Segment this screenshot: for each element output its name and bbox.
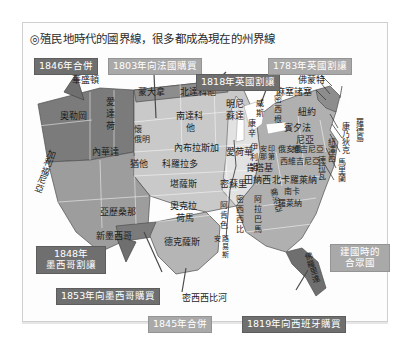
state-label-illinois-2: 利 xyxy=(250,154,258,162)
annotation-1818-british-cession[interactable]: 1818年英國割讓 xyxy=(196,74,280,91)
state-label-south-carolina-2: 羅萊納 xyxy=(278,200,302,208)
state-label-pennsylvania-2: 尼亞 xyxy=(296,136,314,145)
state-label-texas: 德克薩斯 xyxy=(164,238,200,247)
annotation-founding-union[interactable]: 建國時的 合眾國 xyxy=(330,244,390,272)
state-label-washington: 華盛頓 xyxy=(72,76,99,85)
state-label-idaho-3: 荷 xyxy=(106,122,115,131)
state-label-new-mexico: 新墨西哥 xyxy=(96,232,132,241)
state-label-indiana-2: 第 xyxy=(268,154,275,161)
state-label-indiana-4: 那 xyxy=(260,154,267,161)
state-label-maine: 緬因 xyxy=(342,94,350,110)
figure-root: ◎殖民地時代的國界線，很多都成為現在的州界線 xyxy=(0,0,411,357)
state-label-wisconsin-4: 辛 xyxy=(248,130,256,138)
river-label-mississippi: 密西西比河 xyxy=(182,294,227,303)
state-label-wyoming-2: 俄明 xyxy=(134,136,150,144)
state-label-new-york: 紐約 xyxy=(298,108,316,117)
state-label-alabama-1: 阿 xyxy=(254,196,262,204)
state-label-arizona: 亞歷桑那 xyxy=(100,208,136,217)
state-label-colorado: 科羅拉多 xyxy=(162,160,198,169)
state-label-missouri: 密蘇里 xyxy=(220,180,247,189)
annotation-1846-annexation[interactable]: 1846年合併 xyxy=(34,58,98,75)
state-label-delaware: 德拉瓦 xyxy=(316,156,324,180)
state-label-massachusetts: 麻塞諸塞 xyxy=(276,88,312,97)
state-label-west-virginia: 西維吉尼亞 xyxy=(280,158,320,166)
state-label-wisconsin-1: 威 xyxy=(256,100,264,108)
state-label-south-dakota-2: 他 xyxy=(186,124,195,133)
state-label-mississippi-3: 西 xyxy=(236,216,244,224)
annotation-1803-louisiana-purchase[interactable]: 1803年向法國購買 xyxy=(108,58,202,75)
state-label-alabama-4: 馬 xyxy=(254,226,262,234)
state-label-pennsylvania-1: 賓夕法 xyxy=(284,124,311,133)
state-label-north-carolina: 北卡羅萊納 xyxy=(272,176,317,185)
state-label-nevada: 內華達 xyxy=(92,148,119,157)
state-label-kansas: 堪薩斯 xyxy=(170,180,197,189)
state-label-oklahoma-1: 奧克拉 xyxy=(170,202,197,211)
state-label-wisconsin-2: 斯 xyxy=(256,110,264,118)
state-label-louisiana-4: 安 xyxy=(214,236,221,243)
annotation-1848-line1: 1848年 xyxy=(54,248,88,259)
state-label-illinois-1: 伊 xyxy=(250,144,258,152)
state-label-new-jersey: 紐澤西 xyxy=(326,138,334,162)
state-label-arkansas-1: 阿 xyxy=(220,202,228,210)
state-label-nebraska: 內布拉斯加 xyxy=(174,144,219,153)
state-label-maryland: 馬里蘭 xyxy=(336,158,344,182)
state-label-virginia: 維吉尼亞 xyxy=(292,146,324,154)
state-label-wyoming-1: 懷 xyxy=(134,126,142,134)
state-label-idaho-1: 愛 xyxy=(106,98,115,107)
state-label-south-carolina-1: 南卡 xyxy=(284,188,300,196)
state-label-mississippi-2: 西 xyxy=(236,206,244,214)
annotation-founding-line2: 合眾國 xyxy=(345,257,375,268)
state-label-montana: 蒙大拿 xyxy=(138,88,165,97)
state-label-oklahoma-2: 荷馬 xyxy=(176,214,194,223)
state-label-louisiana-3: 斯 xyxy=(222,252,229,259)
annotation-1848-mexican-cession[interactable]: 1848年 墨西哥割讓 xyxy=(36,246,106,274)
state-label-tennessee: 田納西 xyxy=(244,176,271,185)
annotation-founding-line1: 建國時的 xyxy=(340,246,380,257)
annotation-1783-british-cession[interactable]: 1783年英國割讓 xyxy=(268,58,352,75)
state-label-vermont: 佛蒙特 xyxy=(298,76,325,85)
state-label-mississippi-1: 密 xyxy=(236,196,244,204)
state-label-michigan-2: 西 xyxy=(274,106,282,114)
page-title: ◎殖民地時代的國界線，很多都成為現在的州界線 xyxy=(30,30,275,46)
state-label-arkansas-3: 色 xyxy=(220,222,228,230)
state-label-arkansas-2: 肯 xyxy=(220,212,228,220)
state-label-minnesota-1: 明尼 xyxy=(226,100,244,109)
state-label-connecticut: 康乃狄克 xyxy=(340,122,348,154)
state-label-iowa: 愛荷華 xyxy=(226,148,253,157)
state-label-south-dakota-1: 南達科 xyxy=(176,112,203,121)
state-label-rhode-island: 羅德島 xyxy=(354,118,362,142)
state-label-alabama-3: 巴 xyxy=(254,216,262,224)
annotation-1848-line2: 墨西哥割讓 xyxy=(46,259,96,270)
annotation-1845-texas-annexation[interactable]: 1845年合併 xyxy=(148,316,212,333)
state-label-alabama-2: 拉 xyxy=(254,206,262,214)
state-label-kentucky: 肯塔基 xyxy=(246,164,273,173)
state-label-mississippi-4: 比 xyxy=(236,226,244,234)
state-label-michigan-3: 根 xyxy=(274,116,282,124)
state-label-wisconsin-3: 康 xyxy=(248,120,256,128)
annotation-1853-gadsden-purchase[interactable]: 1853年向墨西哥購買 xyxy=(56,288,160,305)
state-label-utah: 猶他 xyxy=(130,160,148,169)
annotation-1819-spanish-purchase[interactable]: 1819年向西班牙購買 xyxy=(242,316,346,333)
state-label-oregon: 奧勒岡 xyxy=(60,112,87,121)
state-label-idaho-2: 達 xyxy=(106,110,115,119)
state-label-minnesota-2: 蘇達 xyxy=(226,112,244,121)
